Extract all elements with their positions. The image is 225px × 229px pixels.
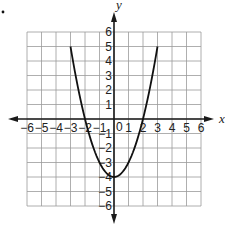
y-tick-label: 2: [105, 83, 112, 97]
y-tick-label: 5: [105, 40, 112, 54]
problem-marker-dot: [2, 11, 5, 14]
y-tick-label: 6: [105, 25, 112, 39]
x-tick-label: 4: [169, 121, 176, 135]
x-tick-label: 1: [125, 121, 132, 135]
x-axis-left-arrow-icon: [8, 116, 18, 122]
x-tick-label: 3: [154, 121, 161, 135]
x-axis-title: x: [218, 111, 225, 126]
y-tick-label: 1: [105, 98, 112, 112]
x-tick-label: −6: [20, 121, 34, 135]
y-axis-up-arrow-icon: [111, 12, 117, 22]
origin-label: 0: [116, 120, 123, 134]
y-tick-label: −5: [98, 185, 112, 199]
y-tick-label: 3: [105, 69, 112, 83]
y-tick-label: −2: [98, 141, 112, 155]
y-tick-label: −6: [98, 199, 112, 213]
y-tick-label: 4: [105, 54, 112, 68]
x-tick-label: −5: [35, 121, 49, 135]
x-tick-label: −4: [49, 121, 63, 135]
x-tick-label: −3: [64, 121, 78, 135]
x-axis-right-arrow-icon: [204, 116, 214, 122]
coordinate-plane: −6−5−4−3−2−1123456654321−1−2−3−4−5−6 x y…: [0, 0, 225, 229]
y-tick-label: −1: [98, 127, 112, 141]
y-axis-down-arrow-icon: [111, 214, 117, 224]
y-axis-title: y: [114, 0, 122, 12]
x-tick-label: 6: [198, 121, 205, 135]
x-tick-label: 5: [183, 121, 190, 135]
